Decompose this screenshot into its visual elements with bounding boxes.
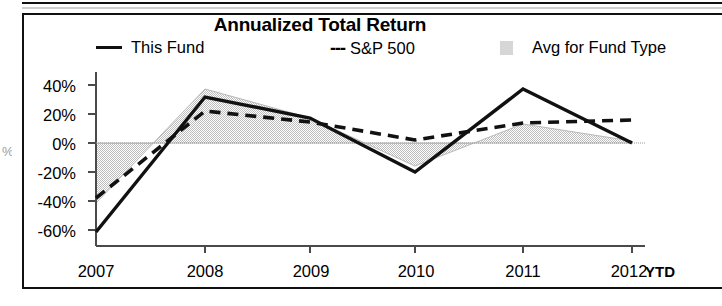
x-axis-ticks xyxy=(205,246,632,253)
y-axis-ticks xyxy=(88,85,96,230)
series-line-this-fund xyxy=(96,89,632,232)
